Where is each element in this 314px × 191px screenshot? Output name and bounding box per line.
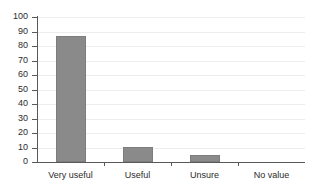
- y-axis-tick-label: 70: [2, 56, 28, 65]
- y-axis-tick-label: 30: [2, 114, 28, 123]
- bars: [37, 17, 305, 162]
- y-axis-tick-label: 80: [2, 41, 28, 50]
- y-axis-tick-label: 0: [2, 157, 28, 166]
- x-axis-category-label: No value: [238, 170, 305, 180]
- y-axis-tick-label: 20: [2, 128, 28, 137]
- bar: [123, 147, 153, 162]
- bar-chart: 0102030405060708090100 Very usefulUseful…: [0, 0, 314, 191]
- x-axis-tick: [171, 162, 172, 166]
- y-axis-tick-label: 50: [2, 85, 28, 94]
- x-axis-tick: [238, 162, 239, 166]
- y-axis-tick-label: 10: [2, 143, 28, 152]
- bar: [56, 36, 86, 162]
- x-axis-category-label: Unsure: [171, 170, 238, 180]
- y-axis-tick-label: 90: [2, 27, 28, 36]
- y-axis-tick-label: 60: [2, 70, 28, 79]
- y-axis-tick-label: 100: [2, 12, 28, 21]
- bar: [190, 155, 220, 162]
- x-axis-category-label: Very useful: [37, 170, 104, 180]
- x-axis-category-label: Useful: [104, 170, 171, 180]
- y-axis-tick-label: 40: [2, 99, 28, 108]
- x-axis-tick: [104, 162, 105, 166]
